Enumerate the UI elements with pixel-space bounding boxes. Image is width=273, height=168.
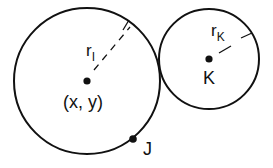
radius-tick-K (241, 33, 252, 38)
radius-line-K (219, 46, 231, 53)
point-label-J: J (143, 139, 152, 159)
center-point-K (205, 55, 212, 62)
radius-label-K: rK (211, 21, 225, 44)
radius-label-I: rI (86, 41, 95, 64)
diagram-svg: rI (x, y) rK K J (0, 0, 273, 168)
center-label-I: (x, y) (63, 92, 103, 112)
center-label-K: K (203, 68, 215, 88)
radius-line-I (94, 27, 130, 70)
point-J (129, 135, 137, 143)
center-point-I (83, 77, 90, 84)
tangent-circles-diagram: rI (x, y) rK K J (0, 0, 273, 168)
